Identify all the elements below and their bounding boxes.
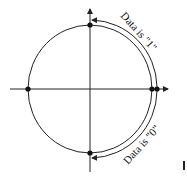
arc-data-0 (92, 91, 157, 158)
phase-circle-diagram: Data is "1" Data is "0" (0, 0, 187, 178)
point-right-inner (149, 86, 154, 91)
edge-mark (183, 161, 185, 170)
point-top (87, 22, 92, 27)
point-right-outer (154, 86, 159, 91)
label-data-0: Data is "0" (121, 123, 162, 167)
point-bottom (87, 150, 92, 155)
label-data-1: Data is "1" (119, 9, 160, 53)
point-left (25, 86, 30, 91)
